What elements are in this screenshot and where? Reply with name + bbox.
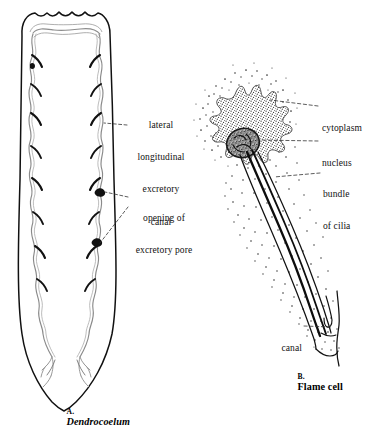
label-line-cytoplasm: cytoplasm — [322, 123, 362, 134]
label-line-bundle: bundle — [323, 189, 350, 200]
caption-b-prefix: B. — [298, 372, 305, 381]
bundle-of-cilia-strand-2 — [252, 150, 326, 334]
bundle-of-cilia-strand-1 — [247, 152, 320, 336]
left-canal-pore-knot — [30, 63, 35, 69]
canal-tube-lower-left — [316, 349, 338, 356]
label-line-of-cilia: of cilia — [323, 221, 350, 232]
label-line-canal-b: canal — [266, 343, 302, 354]
caption-b-name: Flame cell — [298, 381, 343, 392]
label-bundle-of-cilia: bundle of cilia — [323, 167, 350, 253]
canal-outer-tube-inner — [321, 333, 336, 336]
leader-bundle-of-cilia — [274, 173, 320, 177]
planarian-body-group — [18, 12, 116, 411]
caption-a-name: Dendrocoelum — [67, 416, 130, 427]
label-line-longitudinal: longitudinal — [129, 152, 193, 163]
label-line-opening-of: opening of — [128, 213, 200, 224]
canal-wall-left — [240, 155, 316, 349]
label-line-excretory-pore: excretory pore — [128, 245, 200, 256]
leader-cytoplasm — [270, 100, 318, 106]
label-opening-of-excretory-pore: opening of excretory pore — [128, 191, 200, 277]
label-line-lateral: lateral — [129, 120, 193, 131]
caption-a-prefix: A. — [67, 407, 75, 416]
canal-wall-right — [258, 152, 331, 333]
caption-panel-b: B. Flame cell — [288, 361, 343, 402]
caption-panel-a: A. Dendrocoelum — [57, 396, 130, 429]
